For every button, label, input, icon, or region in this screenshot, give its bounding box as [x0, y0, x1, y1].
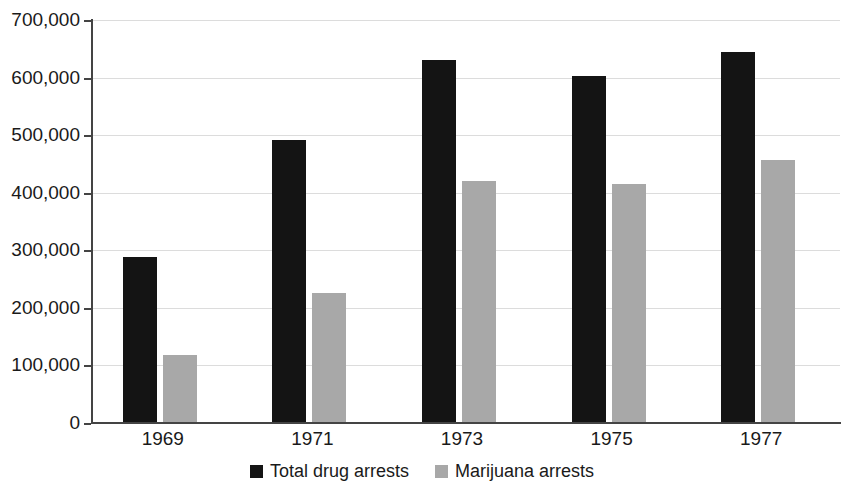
bar-marijuana-arrests-1977 — [761, 160, 795, 423]
x-axis-tick-label: 1977 — [740, 429, 782, 449]
x-axis-tick-label: 1973 — [441, 429, 483, 449]
y-axis-tick-label: 0 — [0, 413, 80, 432]
y-axis-tick — [84, 193, 91, 195]
bar-marijuana-arrests-1975 — [612, 184, 646, 423]
y-axis-tick-label: 700,000 — [0, 10, 80, 29]
legend-swatch-icon — [435, 465, 448, 478]
bar-group — [92, 20, 840, 423]
y-axis-line — [91, 19, 93, 424]
y-axis-tick — [84, 365, 91, 367]
bar-total-drug-arrests-1975 — [572, 76, 606, 423]
y-axis-tick — [84, 20, 91, 22]
bar-marijuana-arrests-1969 — [163, 355, 197, 423]
y-axis-tick-label: 200,000 — [0, 298, 80, 317]
y-axis-tick-label: 500,000 — [0, 125, 80, 144]
legend-item-total-drug-arrests: Total drug arrests — [250, 461, 409, 481]
legend-label: Total drug arrests — [270, 461, 409, 481]
y-axis-tick — [84, 308, 91, 310]
y-axis-tick — [84, 135, 91, 137]
bar-chart: 0100,000200,000300,000400,000500,000600,… — [0, 0, 844, 490]
bar-total-drug-arrests-1973 — [422, 60, 456, 423]
bar-marijuana-arrests-1973 — [462, 181, 496, 423]
y-axis-tick-label: 100,000 — [0, 355, 80, 374]
x-axis-tick-label: 1969 — [142, 429, 184, 449]
legend-label: Marijuana arrests — [455, 461, 594, 481]
y-axis-tick — [84, 423, 91, 425]
bar-total-drug-arrests-1977 — [721, 52, 755, 423]
y-axis-tick-label: 600,000 — [0, 68, 80, 87]
y-axis-tick-label: 400,000 — [0, 183, 80, 202]
legend-swatch-icon — [250, 465, 263, 478]
bar-total-drug-arrests-1969 — [123, 257, 157, 423]
y-axis-tick — [84, 250, 91, 252]
legend-item-marijuana-arrests: Marijuana arrests — [435, 461, 594, 481]
bar-total-drug-arrests-1971 — [272, 140, 306, 423]
x-axis-line — [91, 422, 841, 424]
y-axis-tick — [84, 78, 91, 80]
y-axis-labels: 0100,000200,000300,000400,000500,000600,… — [0, 0, 80, 490]
bar-marijuana-arrests-1971 — [312, 293, 346, 423]
y-axis-tick-label: 300,000 — [0, 240, 80, 259]
x-axis-tick-label: 1975 — [590, 429, 632, 449]
chart-legend: Total drug arrestsMarijuana arrests — [0, 461, 844, 481]
x-axis-tick-label: 1971 — [291, 429, 333, 449]
